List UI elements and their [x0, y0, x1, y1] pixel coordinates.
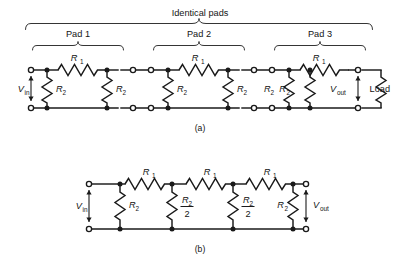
svg-text:R: R [71, 53, 78, 63]
input-terminal-top [28, 67, 33, 72]
svg-text:R: R [192, 53, 199, 63]
vin-label-b: V in [76, 201, 88, 213]
svg-text:out: out [320, 205, 329, 212]
svg-text:2: 2 [185, 209, 190, 219]
junction-dot [231, 227, 236, 232]
shunt-resistor-2 [102, 70, 112, 108]
svg-text:2: 2 [63, 89, 67, 96]
series-resistor-3 [300, 65, 349, 76]
shunt-resistor-1 [42, 70, 52, 108]
b-input-terminal-top [86, 181, 91, 186]
pad-3-series-label: R 1 [313, 53, 326, 65]
svg-text:2: 2 [250, 200, 254, 207]
svg-text:1: 1 [201, 58, 205, 65]
junction-dot [45, 68, 50, 73]
shunt-6-label: R 2 [279, 84, 290, 96]
junction-dot [308, 68, 313, 73]
pad-boundary-terminal-bottom-1 [130, 105, 135, 110]
pad-boundary-terminal-top-4 [269, 67, 274, 72]
svg-text:2: 2 [189, 200, 193, 207]
svg-text:2: 2 [271, 89, 275, 96]
junction-dot [291, 182, 296, 187]
junction-dot [118, 227, 123, 232]
b-shunt-resistor-2 [167, 184, 177, 229]
b-output-terminal-top [303, 181, 308, 186]
series-resistor-2 [179, 65, 228, 76]
vin-label-a: V in [18, 84, 30, 96]
circuit-a: V in R 2 R 2 R 2 R 2 [18, 65, 390, 111]
junction-dot [226, 106, 231, 111]
junction-dot [166, 106, 171, 111]
junction-dot [287, 68, 292, 73]
vout-label-a: V out [330, 84, 346, 96]
svg-text:R: R [277, 200, 284, 210]
b-series-resistor-1 [125, 179, 172, 190]
junction-dot [231, 182, 236, 187]
b-shunt-2-label: R 2 2 [181, 195, 193, 219]
svg-text:R: R [279, 84, 286, 94]
junction-dot [105, 106, 110, 111]
b-series-resistor-3 [246, 179, 293, 190]
svg-text:2: 2 [246, 209, 251, 219]
pad-2-series-label: R 1 [192, 53, 205, 65]
b-series-resistor-2 [186, 179, 233, 190]
shunt-5-label: R 2 [264, 84, 275, 96]
junction-dot [170, 182, 175, 187]
outer-brace [26, 19, 373, 30]
svg-text:1: 1 [322, 58, 326, 65]
b-output-terminal-bottom [303, 226, 308, 231]
b-shunt-4-label: R 2 [277, 200, 288, 212]
svg-text:2: 2 [136, 205, 140, 212]
b-shunt-resistor-3 [228, 184, 238, 229]
b-shunt-resistor-4 [288, 184, 298, 229]
junction-dot [166, 68, 171, 73]
vout-label-b: V out [313, 200, 329, 212]
pad-2-label: Pad 2 [187, 29, 211, 39]
junction-dot [118, 182, 123, 187]
pad-boundary-terminal-bottom-4 [269, 105, 274, 110]
svg-text:out: out [337, 89, 346, 96]
pad-boundary-terminal-bottom-3 [251, 105, 256, 110]
svg-text:1: 1 [152, 172, 156, 179]
pad-boundary-terminal-top-1 [130, 67, 135, 72]
shunt-4-label: R 2 [237, 84, 248, 96]
svg-text:in: in [83, 206, 88, 213]
pad-1-series-label: R 1 [71, 53, 84, 65]
caption-b: (b) [195, 244, 206, 254]
circuit-b-series-label-1: R 1 [143, 167, 156, 179]
load-label: Load [370, 84, 390, 94]
svg-text:V: V [330, 84, 337, 94]
pad-1-label: Pad 1 [66, 29, 90, 39]
circuit-b-series-label-3: R 1 [264, 167, 277, 179]
shunt-1-label: R 2 [56, 84, 67, 96]
shunt-resistor-6 [305, 70, 315, 108]
svg-text:2: 2 [244, 89, 248, 96]
shunt-resistor-4 [223, 70, 233, 108]
svg-text:2: 2 [285, 205, 289, 212]
junction-dot [291, 227, 296, 232]
junction-dot [105, 68, 110, 73]
figure-container: Identical pads Pad 1 Pad 2 Pad 3 R 1 R 1… [0, 0, 400, 265]
svg-text:2: 2 [287, 89, 291, 96]
b-shunt-1-label: R 2 [129, 200, 140, 212]
series-resistor-1 [58, 65, 107, 76]
svg-text:1: 1 [213, 172, 217, 179]
b-shunt-resistor-1 [115, 184, 125, 229]
svg-text:in: in [25, 89, 30, 96]
shunt-resistor-3 [163, 70, 173, 108]
vout-arrow-b [303, 190, 308, 222]
svg-text:R: R [264, 167, 271, 177]
svg-text:1: 1 [273, 172, 277, 179]
input-terminal-bottom [28, 105, 33, 110]
pad-boundary-terminal-top-2 [148, 67, 153, 72]
shunt-2-label: R 2 [116, 84, 127, 96]
svg-text:2: 2 [123, 89, 127, 96]
pad-2-brace [154, 42, 245, 51]
circuit-b-series-label-2: R 1 [204, 167, 217, 179]
shunt-3-label: R 2 [177, 84, 188, 96]
circuit-b: V in R 2 R 2 2 R 2 2 R 2 [76, 179, 329, 232]
identical-pads-header: Identical pads [172, 8, 229, 18]
output-terminal-bottom [355, 105, 360, 110]
svg-text:R: R [204, 167, 211, 177]
vout-arrow-a [355, 76, 360, 101]
